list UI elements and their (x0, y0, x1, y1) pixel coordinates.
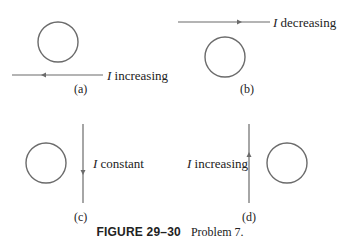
panel-b (178, 20, 270, 78)
sublabel-a: (a) (74, 83, 87, 95)
arrow-right-icon (237, 20, 242, 25)
panel-a (12, 22, 103, 78)
figure-diagram (0, 0, 340, 240)
figure-number: FIGURE 29–30 (96, 225, 180, 239)
arrow-down-icon (81, 170, 86, 175)
loop-a (38, 22, 78, 62)
panel-d (247, 124, 308, 203)
loop-d (267, 143, 307, 183)
sublabel-b: (b) (240, 83, 254, 95)
loop-b (205, 37, 245, 77)
loop-c (26, 143, 66, 183)
current-symbol: I (93, 156, 97, 171)
current-label-d: I increasing (187, 157, 248, 170)
current-label-a: I increasing (107, 69, 168, 82)
current-label-b: I decreasing (273, 16, 336, 29)
current-state: decreasing (281, 15, 337, 30)
sublabel-c: (c) (74, 211, 87, 223)
current-state: increasing (195, 156, 248, 171)
current-symbol: I (107, 68, 111, 83)
arrow-left-icon (41, 73, 46, 78)
current-symbol: I (273, 15, 277, 30)
current-state: constant (101, 156, 144, 171)
current-symbol: I (187, 156, 191, 171)
panel-c (26, 124, 86, 203)
current-label-c: I constant (93, 157, 144, 170)
sublabel-d: (d) (242, 211, 256, 223)
current-state: increasing (115, 68, 168, 83)
figure-caption: FIGURE 29–30Problem 7. (0, 226, 340, 238)
figure-caption-text: Problem 7. (191, 225, 244, 239)
